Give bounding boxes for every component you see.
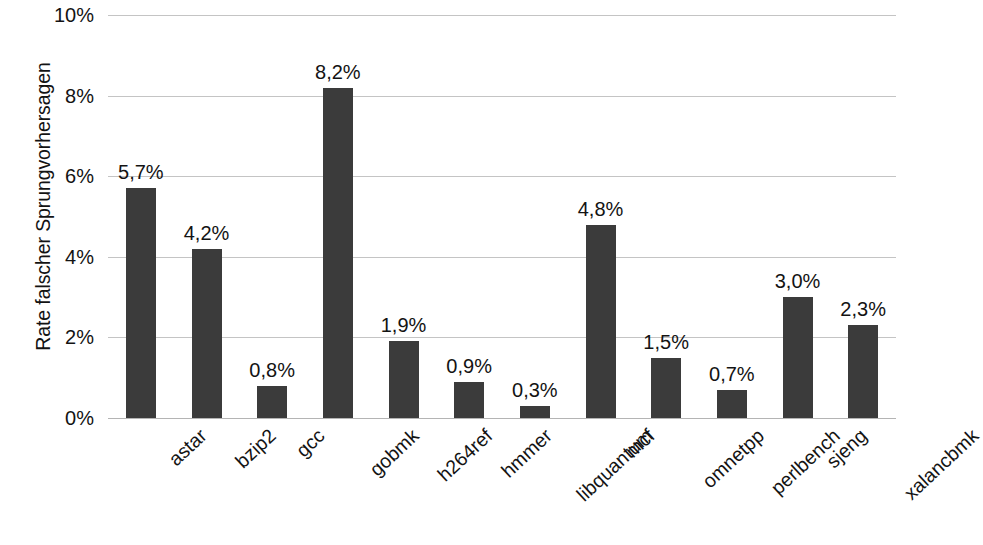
x-axis-label: gobmk xyxy=(366,425,422,480)
bar xyxy=(717,390,747,418)
x-axis-label: hmmer xyxy=(497,425,555,481)
y-tick-label: 10% xyxy=(32,5,94,25)
gridline xyxy=(108,96,896,97)
bar xyxy=(389,341,419,418)
data-label: 1,9% xyxy=(359,314,449,336)
x-axis-label: xalancbmk xyxy=(900,425,982,503)
bar xyxy=(848,325,878,418)
data-label: 0,7% xyxy=(687,363,777,385)
data-label: 2,3% xyxy=(818,298,908,320)
data-label: 4,8% xyxy=(556,198,646,220)
x-axis-label: gcc xyxy=(292,425,328,460)
bar xyxy=(520,406,550,418)
data-label: 0,9% xyxy=(424,355,514,377)
gridline xyxy=(108,257,896,258)
y-axis-tick-labels: 10% 8% 6% 4% 2% 0% xyxy=(32,0,94,440)
bar xyxy=(257,386,287,418)
data-label: 3,0% xyxy=(753,270,843,292)
gridline xyxy=(108,418,896,419)
y-tick-label: 6% xyxy=(32,166,94,186)
y-tick-label: 4% xyxy=(32,247,94,267)
x-axis-label: astar xyxy=(164,425,209,469)
data-label: 4,2% xyxy=(162,222,252,244)
y-tick-label: 8% xyxy=(32,86,94,106)
bar xyxy=(192,249,222,418)
x-axis-category-labels: astarbzip2gccgobmkh264refhmmerlibquantum… xyxy=(108,425,896,545)
data-label: 0,8% xyxy=(227,359,317,381)
x-axis-label: h264ref xyxy=(433,425,495,485)
y-tick-label: 0% xyxy=(32,408,94,428)
bar xyxy=(586,225,616,418)
bar xyxy=(323,88,353,418)
data-label: 1,5% xyxy=(621,331,711,353)
bar xyxy=(126,188,156,418)
data-label: 5,7% xyxy=(96,161,186,183)
data-label: 0,3% xyxy=(490,379,580,401)
gridline xyxy=(108,337,896,338)
data-label: 8,2% xyxy=(293,61,383,83)
gridline xyxy=(108,176,896,177)
bar xyxy=(783,297,813,418)
x-axis-label: omnetpp xyxy=(699,425,768,491)
bar xyxy=(454,382,484,418)
y-tick-label: 2% xyxy=(32,327,94,347)
bar xyxy=(651,358,681,418)
x-axis-label: bzip2 xyxy=(231,425,279,471)
gridline xyxy=(108,15,896,16)
